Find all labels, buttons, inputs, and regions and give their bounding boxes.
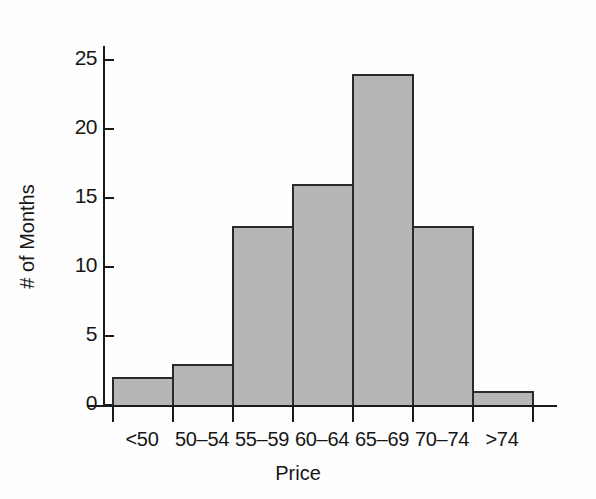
histogram-bar xyxy=(112,377,174,407)
x-axis-tick xyxy=(352,407,354,422)
x-axis-tick xyxy=(292,407,294,422)
histogram-bar xyxy=(412,226,474,408)
x-axis-tick xyxy=(412,407,414,422)
x-axis-title: Price xyxy=(0,462,596,485)
x-axis-tick-label: >74 xyxy=(462,428,542,451)
x-axis-tick xyxy=(532,407,534,422)
x-axis-line xyxy=(87,405,557,407)
plot-area xyxy=(0,0,596,499)
histogram-bar xyxy=(292,184,354,407)
histogram-bar xyxy=(232,226,294,408)
x-axis-tick xyxy=(232,407,234,422)
x-axis-tick xyxy=(472,407,474,422)
histogram-bar xyxy=(352,74,414,407)
histogram-figure: 0510152025 # of Months <5050–5455–5960–6… xyxy=(0,0,596,499)
x-axis-tick xyxy=(172,407,174,422)
histogram-bar xyxy=(172,364,234,407)
x-axis-tick xyxy=(112,407,114,422)
